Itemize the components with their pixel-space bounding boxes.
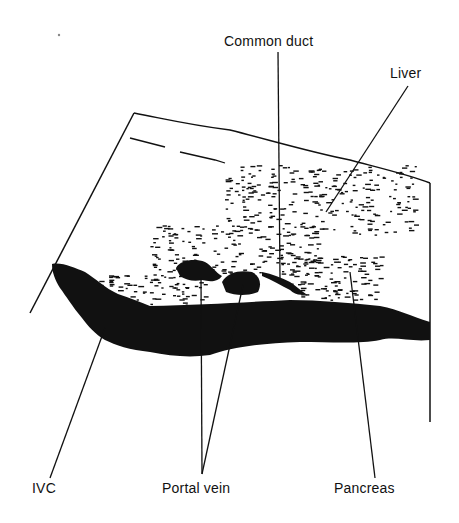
leader-ivc <box>50 328 105 478</box>
common-duct-shape <box>262 272 306 295</box>
portal-vein-shape-1 <box>176 260 222 281</box>
label-liver: Liver <box>390 65 421 81</box>
label-common-duct: Common duct <box>224 33 313 49</box>
stray-mark <box>58 34 60 36</box>
leader-pancreas <box>350 272 375 478</box>
liver-capsule-dash <box>130 138 225 163</box>
label-ivc: IVC <box>32 480 56 496</box>
label-pancreas: Pancreas <box>334 480 395 496</box>
leader-liver <box>326 86 408 212</box>
label-portal-vein: Portal vein <box>162 480 230 496</box>
scan-frame <box>30 113 430 422</box>
